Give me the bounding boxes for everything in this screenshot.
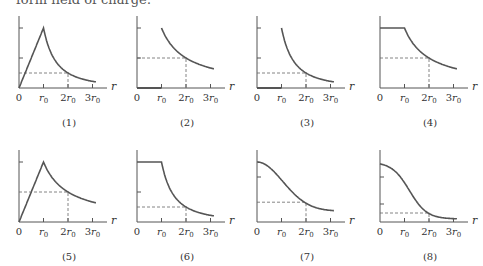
panel-label: (3)	[300, 117, 314, 128]
x-tick-label: 2r0	[421, 92, 437, 105]
chart-panel-4: 0r02r03r0r(4)	[366, 6, 483, 131]
panel-label: (5)	[62, 251, 76, 262]
chart-panel-5: 0r02r03r0r(5)	[5, 140, 123, 265]
x-tick-label-0: 0	[254, 92, 260, 103]
x-tick-label-0: 0	[134, 92, 140, 103]
field-curve	[19, 28, 96, 88]
chart-panel-6: 0r02r03r0r(6)	[123, 140, 241, 265]
x-tick-label: 3r0	[446, 92, 462, 105]
x-tick-label: r0	[157, 226, 166, 239]
field-curve	[137, 162, 214, 216]
x-tick-label: 3r0	[85, 92, 101, 105]
chart-panel-2: 0r02r03r0r(2)	[123, 6, 241, 131]
dashed-reference-line	[19, 192, 68, 222]
x-tick-label: r0	[400, 92, 409, 105]
x-tick-label: r0	[157, 92, 166, 105]
x-axis-label: r	[229, 80, 235, 93]
x-axis-label: r	[349, 214, 355, 227]
x-tick-label: r0	[400, 226, 409, 239]
chart-panel-8: 0r02r03r0r(8)	[366, 140, 483, 265]
x-tick-label: 3r0	[323, 226, 339, 239]
field-curve	[380, 28, 457, 69]
x-tick-label: r0	[277, 226, 286, 239]
panel-label: (6)	[180, 251, 194, 262]
dashed-reference-line	[380, 58, 429, 88]
x-axis-label: r	[472, 80, 478, 93]
panel-label: (1)	[62, 117, 76, 128]
x-tick-label: r0	[277, 92, 286, 105]
panel-label: (4)	[423, 117, 437, 128]
dashed-reference-line	[137, 58, 186, 88]
x-axis-label: r	[229, 214, 235, 227]
x-tick-label: 2r0	[298, 92, 314, 105]
field-curve	[282, 28, 334, 82]
x-tick-label-0: 0	[16, 226, 22, 237]
x-tick-label: 3r0	[323, 92, 339, 105]
x-tick-label: 2r0	[60, 92, 76, 105]
x-tick-label: r0	[39, 226, 48, 239]
field-curve	[19, 162, 96, 222]
field-curve	[380, 164, 457, 219]
x-axis-label: r	[349, 80, 355, 93]
chart-panel-1: 0r02r03r0r(1)	[5, 6, 123, 131]
x-tick-label-0: 0	[16, 92, 22, 103]
x-tick-label: 2r0	[178, 226, 194, 239]
x-tick-label-0: 0	[377, 92, 383, 103]
x-axis-label: r	[111, 214, 117, 227]
chart-panel-3: 0r02r03r0r(3)	[243, 6, 361, 131]
x-tick-label: 3r0	[85, 226, 101, 239]
x-tick-label-0: 0	[134, 226, 140, 237]
x-tick-label: 3r0	[203, 226, 219, 239]
x-tick-label: 3r0	[446, 226, 462, 239]
field-curve	[257, 162, 334, 211]
x-tick-label-0: 0	[377, 226, 383, 237]
chart-panel-7: 0r02r03r0r(7)	[243, 140, 361, 265]
x-tick-label: 3r0	[203, 92, 219, 105]
x-tick-label: 2r0	[178, 92, 194, 105]
panel-label: (2)	[180, 117, 194, 128]
panel-label: (7)	[300, 251, 314, 262]
x-tick-label: 2r0	[298, 226, 314, 239]
x-tick-label: 2r0	[60, 226, 76, 239]
x-tick-label: r0	[39, 92, 48, 105]
x-axis-label: r	[111, 80, 117, 93]
x-tick-label: 2r0	[421, 226, 437, 239]
x-axis-label: r	[472, 214, 478, 227]
panel-label: (8)	[423, 251, 437, 262]
field-curve	[162, 28, 214, 69]
x-tick-label-0: 0	[254, 226, 260, 237]
